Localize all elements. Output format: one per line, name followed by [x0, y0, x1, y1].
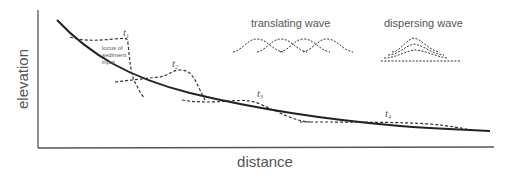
time-label-t1: t1: [123, 26, 129, 39]
base-profile-curve: [57, 20, 490, 131]
dispersing-wave-icon: [381, 38, 460, 61]
x-axis: [38, 147, 494, 148]
locus-label-line1: locus of: [102, 45, 123, 51]
time-label-t3: t3: [257, 87, 263, 100]
x-axis-label: distance: [237, 153, 293, 170]
sediment-wave-diagram: t1 t2 t3 t4 locus of sediment input tran…: [0, 0, 515, 177]
wave-t3: [182, 100, 310, 122]
y-axis-label: elevation: [14, 49, 31, 109]
dispersing-wave-label: dispersing wave: [384, 17, 463, 29]
translating-wave-icon: [233, 39, 353, 52]
translating-wave-label: translating wave: [251, 17, 331, 29]
locus-label-line3: input: [102, 59, 115, 65]
time-label-t2: t2: [172, 57, 178, 70]
time-label-t4: t4: [385, 107, 391, 120]
locus-label-line2: sediment: [102, 52, 127, 58]
